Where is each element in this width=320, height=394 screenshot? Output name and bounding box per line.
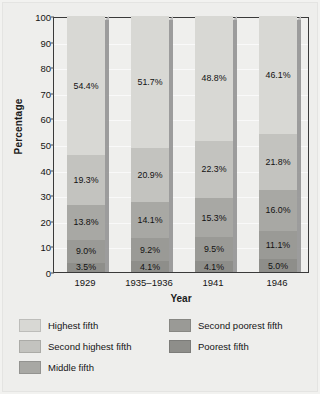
x-tick-label: 1941 bbox=[202, 277, 223, 288]
bar-segment: 4.1% bbox=[195, 261, 233, 271]
bar-segment: 9.2% bbox=[131, 238, 169, 262]
legend-swatch bbox=[19, 319, 41, 332]
bar-segment: 4.1% bbox=[131, 261, 169, 271]
stacked-bar: 54.4%19.3%13.8%9.0%3.5% bbox=[67, 16, 105, 272]
legend-item: Second highest fifth bbox=[19, 336, 169, 357]
y-tick-mark bbox=[51, 273, 54, 274]
bar-segment: 14.1% bbox=[131, 202, 169, 238]
plot-area: Percentage 0102030405060708090100 54.4%1… bbox=[3, 3, 319, 303]
bar-segment-label: 4.1% bbox=[204, 262, 224, 272]
legend-swatch bbox=[19, 340, 41, 353]
y-tick-mark bbox=[51, 170, 54, 171]
chart-figure: Percentage 0102030405060708090100 54.4%1… bbox=[2, 2, 318, 392]
y-tick-label: 90 bbox=[23, 37, 51, 48]
bar-segment: 46.1% bbox=[259, 16, 297, 134]
bar-segment-label: 16.0% bbox=[266, 205, 291, 215]
y-tick-mark bbox=[51, 247, 54, 248]
legend-label: Highest fifth bbox=[48, 320, 98, 331]
bar-segment: 16.0% bbox=[259, 190, 297, 231]
y-tick-label: 10 bbox=[23, 242, 51, 253]
bar-segment-label: 20.9% bbox=[138, 170, 163, 180]
y-tick-mark bbox=[51, 17, 54, 18]
y-tick-mark bbox=[51, 119, 54, 120]
bar-segment: 15.3% bbox=[195, 198, 233, 237]
legend-item: Second poorest fifth bbox=[169, 315, 303, 336]
bar-segment: 13.8% bbox=[67, 205, 105, 240]
bar-segment-label: 48.8% bbox=[202, 73, 227, 83]
x-tick-label: 1946 bbox=[266, 277, 287, 288]
stacked-bar: 48.8%22.3%15.3%9.5%4.1% bbox=[195, 16, 233, 272]
bar-segment-label: 4.1% bbox=[140, 262, 160, 272]
bar-segment-label: 19.3% bbox=[74, 175, 99, 185]
bar-segment-label: 3.5% bbox=[76, 262, 96, 272]
bar-segment-label: 51.7% bbox=[138, 77, 163, 87]
bar-segment-label: 11.1% bbox=[266, 240, 290, 250]
bar-segment: 20.9% bbox=[131, 148, 169, 202]
chart-legend: Highest fifthSecond poorest fifthSecond … bbox=[19, 315, 303, 379]
legend-item: Highest fifth bbox=[19, 315, 169, 336]
bar-segment-label: 13.8% bbox=[74, 217, 99, 227]
y-tick-label: 50 bbox=[23, 140, 51, 151]
bar-segment-label: 9.0% bbox=[76, 246, 96, 256]
y-tick-mark bbox=[51, 93, 54, 94]
bar-segment: 19.3% bbox=[67, 155, 105, 204]
y-tick-label: 60 bbox=[23, 114, 51, 125]
y-axis-ticks: 0102030405060708090100 bbox=[23, 17, 51, 273]
y-tick-mark bbox=[51, 145, 54, 146]
bar-segment-label: 9.5% bbox=[204, 244, 224, 254]
bar-segment: 51.7% bbox=[131, 16, 169, 148]
legend-item: Poorest fifth bbox=[169, 336, 303, 357]
y-tick-mark bbox=[51, 42, 54, 43]
stacked-bar: 51.7%20.9%14.1%9.2%4.1% bbox=[131, 16, 169, 272]
bar-segment-label: 15.3% bbox=[202, 213, 227, 223]
x-tick-label: 1929 bbox=[74, 277, 95, 288]
y-tick-label: 0 bbox=[23, 268, 51, 279]
legend-label: Middle fifth bbox=[48, 362, 94, 373]
bar-segment: 48.8% bbox=[195, 16, 233, 141]
y-tick-mark bbox=[51, 196, 54, 197]
legend-swatch bbox=[169, 340, 191, 353]
x-axis-ticks: 19291935–193619411946 bbox=[53, 277, 309, 291]
y-tick-label: 40 bbox=[23, 165, 51, 176]
y-tick-mark bbox=[51, 68, 54, 69]
bar-segment-label: 5.0% bbox=[268, 261, 288, 271]
bar-segment: 9.5% bbox=[195, 237, 233, 261]
legend-swatch bbox=[19, 361, 41, 374]
y-tick-label: 20 bbox=[23, 216, 51, 227]
bar-segment: 21.8% bbox=[259, 134, 297, 190]
y-tick-label: 30 bbox=[23, 191, 51, 202]
bar-segment-label: 21.8% bbox=[266, 157, 291, 167]
bar-segment: 11.1% bbox=[259, 231, 297, 259]
axes-frame: 54.4%19.3%13.8%9.0%3.5%51.7%20.9%14.1%9.… bbox=[53, 17, 309, 273]
legend-swatch bbox=[169, 319, 191, 332]
y-tick-label: 70 bbox=[23, 88, 51, 99]
bar-segment-label: 54.4% bbox=[74, 81, 99, 91]
bar-segment: 5.0% bbox=[259, 259, 297, 272]
x-axis-title: Year bbox=[53, 293, 309, 304]
stacked-bar: 46.1%21.8%16.0%11.1%5.0% bbox=[259, 16, 297, 272]
bar-segment-label: 22.3% bbox=[202, 164, 227, 174]
bar-segment-label: 14.1% bbox=[138, 215, 163, 225]
y-tick-mark bbox=[51, 221, 54, 222]
bar-segment-label: 9.2% bbox=[140, 245, 160, 255]
legend-label: Second poorest fifth bbox=[198, 320, 283, 331]
legend-item: Middle fifth bbox=[19, 357, 169, 378]
bar-segment: 22.3% bbox=[195, 141, 233, 198]
x-tick-label: 1935–1936 bbox=[125, 277, 173, 288]
bar-segment: 54.4% bbox=[67, 16, 105, 155]
y-tick-label: 80 bbox=[23, 63, 51, 74]
bar-segment-label: 46.1% bbox=[266, 70, 291, 80]
y-tick-label: 100 bbox=[23, 12, 51, 23]
bar-segment: 9.0% bbox=[67, 240, 105, 263]
y-axis-title: Percentage bbox=[13, 87, 24, 167]
legend-label: Poorest fifth bbox=[198, 341, 249, 352]
bar-segment: 3.5% bbox=[67, 263, 105, 272]
legend-label: Second highest fifth bbox=[48, 341, 131, 352]
